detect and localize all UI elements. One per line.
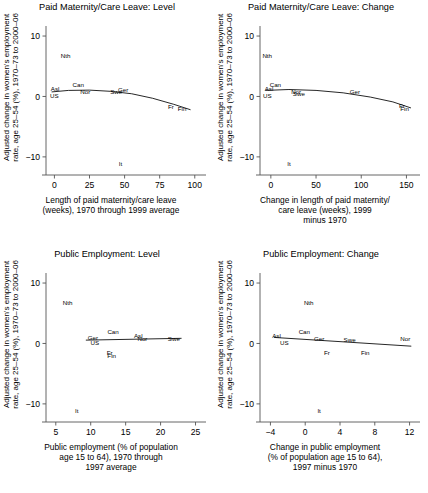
x-tick-label: 5	[53, 427, 58, 437]
x-tick-label: 8	[372, 427, 377, 437]
data-point-label: Fin	[361, 349, 370, 356]
x-axis-label-line: (weeks), 1970 through 1999 average	[8, 206, 214, 216]
y-tick-label: 10	[30, 278, 40, 288]
y-tick-label: 0	[249, 92, 254, 102]
data-point-label: Ger	[314, 335, 324, 342]
data-point-label: Can	[299, 328, 311, 335]
x-tick-label: 25	[191, 427, 201, 437]
data-point-label: Can	[270, 81, 282, 88]
y-tick-label: −10	[25, 399, 40, 409]
data-point-label: Fin	[400, 105, 409, 112]
x-tick-label: 50	[311, 180, 321, 190]
x-axis-label-line: 1997 average	[8, 463, 214, 473]
x-tick-label: 15	[121, 427, 131, 437]
data-point-label: Fin	[107, 352, 116, 359]
data-point-label: US	[280, 339, 289, 346]
panel-paid-leave-change: Paid Maternity/Care Leave: Change Adjust…	[214, 0, 428, 246]
data-point-label: Can	[107, 328, 119, 335]
data-point-label: It	[287, 160, 291, 167]
y-tick-label: −10	[239, 152, 254, 162]
x-tick-label: 100	[188, 180, 203, 190]
data-point-label: US	[50, 92, 59, 99]
data-point-label: Fr	[168, 103, 174, 110]
panel-public-employment-change: Public Employment: Change Adjusted chang…	[214, 247, 428, 493]
data-point-label: It	[317, 407, 321, 414]
x-axis-label-line: 1997 minus 1970	[222, 463, 428, 473]
y-tick-label: −10	[25, 152, 40, 162]
data-point-label: Nor	[137, 335, 147, 342]
data-point-label: It	[75, 407, 79, 414]
data-point-label: Ger	[350, 88, 360, 95]
plot-area: 100−10−404812AslUSNthCanGerItFrSweFinNor	[214, 247, 428, 447]
x-tick-label: 12	[405, 427, 415, 437]
plot-area: 100−100255075100AslUSNthCanNorSweGerItFr…	[0, 0, 214, 200]
y-tick-label: 0	[35, 92, 40, 102]
panel-public-employment-level: Public Employment: Level Adjusted change…	[0, 247, 214, 493]
data-point-label: Fin	[178, 105, 187, 112]
x-tick-label: 100	[354, 180, 369, 190]
x-tick-label: 0	[268, 180, 273, 190]
y-tick-label: −10	[239, 399, 254, 409]
x-axis-label: Length of paid maternity/care leave (wee…	[8, 196, 214, 216]
x-tick-label: −4	[266, 427, 276, 437]
data-point-label: It	[119, 160, 123, 167]
x-tick-label: 10	[86, 427, 96, 437]
data-point-label: Nor	[400, 335, 410, 342]
y-tick-label: 10	[244, 278, 254, 288]
data-point-label: US	[91, 339, 100, 346]
x-axis-label: Public employment (% of population age 1…	[8, 443, 214, 472]
x-tick-label: 25	[85, 180, 95, 190]
panel-paid-leave-level: Paid Maternity/Care Leave: Level Adjuste…	[0, 0, 214, 246]
data-point-label: US	[263, 92, 272, 99]
x-axis-label: Change in public employment (% of popula…	[222, 443, 428, 472]
data-point-label: Nth	[262, 52, 272, 59]
figure-panel-grid: Paid Maternity/Care Leave: Level Adjuste…	[0, 0, 428, 493]
data-point-label: Fr	[324, 349, 330, 356]
data-point-label: Swe	[344, 336, 357, 343]
x-tick-label: 50	[120, 180, 130, 190]
fit-line	[265, 90, 411, 108]
data-point-label: Nth	[304, 299, 314, 306]
y-tick-label: 10	[30, 31, 40, 41]
x-axis-label-line: minus 1970	[222, 216, 428, 226]
y-tick-label: 0	[249, 339, 254, 349]
data-point-label: Ger	[118, 86, 128, 93]
x-tick-label: 4	[338, 427, 343, 437]
data-point-label: Swe	[168, 335, 181, 342]
data-point-label: Nor	[80, 88, 90, 95]
x-tick-label: 20	[156, 427, 166, 437]
y-tick-label: 0	[35, 339, 40, 349]
x-tick-label: 75	[155, 180, 165, 190]
x-axis-label: Change in length of paid maternity/ care…	[222, 196, 428, 225]
x-tick-label: 150	[399, 180, 414, 190]
x-tick-label: 0	[303, 427, 308, 437]
plot-area: 100−10050100150AslUSNthCanNorSweItGerFrF…	[214, 0, 428, 200]
x-tick-label: 0	[52, 180, 57, 190]
data-point-label: Nth	[61, 52, 71, 59]
plot-area: 100−10510152025NthItGerUSCanFrFinAslNorS…	[0, 247, 214, 447]
data-point-label: Nth	[63, 299, 73, 306]
data-point-label: Swe	[293, 90, 306, 97]
y-tick-label: 10	[244, 31, 254, 41]
